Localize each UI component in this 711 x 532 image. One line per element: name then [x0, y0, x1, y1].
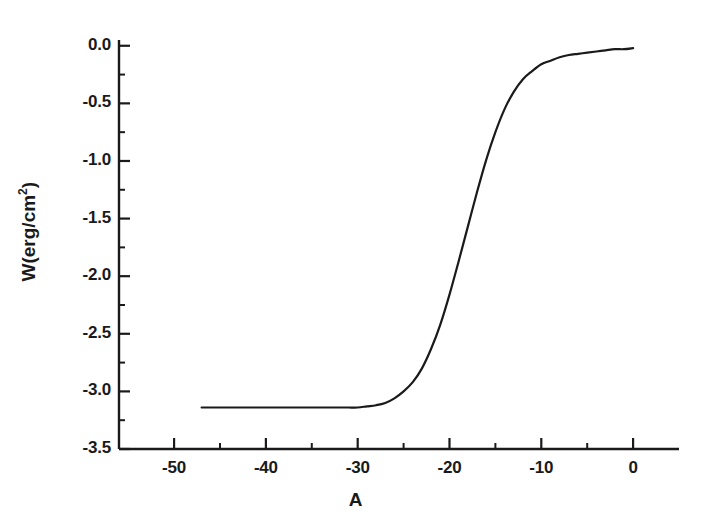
x-axis-tick-label: -10: [511, 458, 571, 478]
figure-canvas: 0.0-0.5-1.0-1.5-2.0-2.5-3.0-3.5 -50-40-3…: [0, 0, 711, 532]
y-axis-label-base: W(erg/cm: [18, 195, 39, 282]
x-axis-tick-label: -50: [144, 458, 204, 478]
y-axis-tick-label: -1.5: [51, 208, 111, 228]
y-axis-tick-label: -1.0: [51, 150, 111, 170]
y-axis-tick-label: 0.0: [51, 35, 111, 55]
x-axis-ticks: [174, 438, 633, 449]
x-axis-tick-label: -20: [419, 458, 479, 478]
y-axis-label-close: ): [18, 182, 39, 188]
y-axis-tick-label: -3.5: [51, 438, 111, 458]
y-axis-tick-label: -0.5: [51, 92, 111, 112]
y-axis-label-exponent: 2: [16, 188, 30, 195]
x-axis-tick-label: 0: [603, 458, 663, 478]
y-axis-tick-label: -2.0: [51, 265, 111, 285]
x-axis-label: A: [0, 489, 711, 511]
x-axis-tick-label: -30: [328, 458, 388, 478]
x-axis-tick-label: -40: [236, 458, 296, 478]
y-axis-tick-label: -2.5: [51, 323, 111, 343]
y-axis-label: W(erg/cm2): [16, 142, 39, 322]
data-series-line: [202, 48, 633, 408]
y-axis-tick-label: -3.0: [51, 380, 111, 400]
y-axis-ticks: [119, 46, 130, 449]
